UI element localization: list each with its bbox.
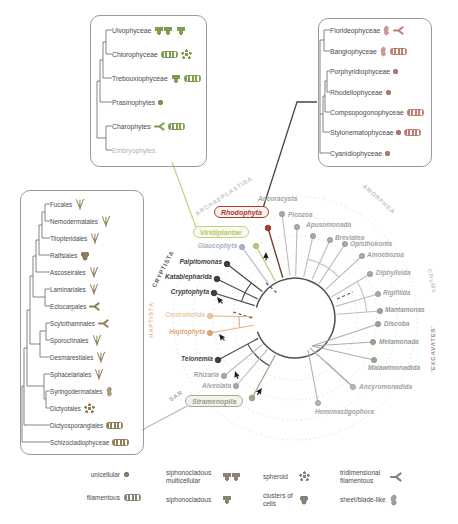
thallus-icon [75,199,85,210]
clade-row: Sphacelariales [50,369,104,379]
clade-row: Laminariales [50,284,99,294]
stramenopila-label: Stramenopila [185,395,243,407]
clade-label: Compsopogonophyceae [330,109,404,116]
siphonocladous-icon [176,26,186,35]
haptophyta-label: Haptophyta [169,328,205,335]
clade-row: Fucales [50,199,85,209]
clade-label: Dictyosporangiales [50,422,103,429]
unicellular-icon [385,151,390,156]
clade-label: Ectocarpales [50,303,86,310]
clade-label: Cyanidiophyceae [330,150,382,157]
clade-row: Embryophytes [112,145,155,155]
tridimensional-filamentous-icon [98,319,109,328]
clade-label: Dictyotales [50,405,81,412]
haptista-region-label: HAPTISTA [148,302,154,338]
clade-row: Prasinophytes [112,97,163,107]
clade-row: Florideophyceae [330,25,404,35]
rhodophyta-label: Rhodophyta [214,206,269,218]
siphonocladous-icon [171,74,181,83]
clade-row: Nemodermatales [50,216,111,226]
clade-label: Sporochnales [50,337,89,344]
clade-label: Porphyridiophyceae [330,68,390,75]
clade-label: Trebouxiophyceae [112,75,168,82]
clade-label: Nemodermatales [50,218,98,225]
clade-row: Charophytes [112,121,185,131]
clade-row: Ectocarpales [50,301,100,311]
clade-label: Scytothamnales [50,320,95,327]
legend-item: sheet/blade-like [340,494,398,506]
unicellular-icon [124,472,129,477]
clade-row: Stylonematophyceae [330,127,421,137]
viridiplantae-branch [256,246,275,281]
clade-row: Cyanidiophyceae [330,148,390,158]
clade-row: Porphyridiophyceae [330,66,398,76]
ancyromonadida-label: Ancyromonadida [359,383,412,390]
sheet-blade-icon [390,494,398,506]
tridimensional-filamentous-icon [89,302,100,311]
amorphea-bracket [308,259,339,277]
haptista-branches [210,316,254,333]
clade-row: Desmarestiales [50,352,106,362]
picozoa-label: Picozoa [288,211,313,218]
legend-label: filamentous [64,494,120,502]
thallus-icon [89,284,99,295]
sheet-blade-icon [383,25,390,36]
legend-label: clusters of cells [263,492,295,508]
malawimonadida-label: Malawimonadida [368,364,420,371]
telonemia-label: Telonemia [181,355,213,362]
tridimensional-filamentous-icon [393,26,404,35]
legend-item: clusters of cells [263,492,309,508]
siphonocladous-icon [222,495,232,504]
phylogenetic-tree-figure: Ulvophyceae Chlorophyceae Trebouxiophyce… [0,0,458,524]
filamentous-icon [404,129,421,136]
opisthokonta-label: Opisthokonta [350,240,392,247]
thallus-icon [92,335,102,346]
clade-label: Desmarestiales [50,354,93,361]
palpitomonas-label: Palpitomonas [179,258,222,265]
alveolata-label: Alveolata [202,382,231,389]
centrohelida-label: Centrohelida [165,311,205,318]
filamentous-icon [390,48,407,55]
thallus-icon [94,369,104,380]
tridimensional-filamentous-icon [154,122,165,131]
amoebozoa-label: Amoebozoa [367,251,404,258]
clade-label: Tilopteridales [50,235,87,242]
clade-row: Syringodermatales [50,386,113,396]
clade-label: Ulvophyceae [112,27,151,34]
cryptophyta-label: Cryptophyta [171,288,209,295]
filamentous-icon [112,439,129,446]
clade-label: Florideophyceae [330,27,380,34]
sheet-blade-icon [106,386,113,397]
filamentous-icon [106,422,123,429]
clusters-of-cells-icon [80,251,90,261]
tridimensional-filamentous-icon [390,472,402,482]
clade-label: Embryophytes [112,147,155,154]
clade-label: Rhodellophyceae [330,89,383,96]
thallus-icon [96,352,106,363]
legend-item: unicellular [64,471,129,479]
spheroid-icon [181,49,192,60]
clade-row: Tilopteridales [50,233,100,243]
filamentous-icon [184,75,201,82]
legend-label: siphonocladous multicellular [166,469,218,485]
clade-label: Chlorophyceae [112,51,158,58]
legend-item: siphonocladous multicellular [166,469,241,485]
clade-label: Syringodermatales [50,388,103,395]
clade-row: Rhodellophyceae [330,87,391,97]
unicellular-icon [158,100,163,105]
clade-row: Ascoseirales [50,267,99,277]
apusomonada-label: Apusomonada [306,221,351,228]
clade-row: Bangiophyceae [330,46,407,56]
mantamonas-label: Mantamonas [385,306,425,313]
clade-row: Dictyotales [50,403,95,413]
haptista-bracket [239,316,240,328]
filamentous-icon [161,51,178,58]
legend-label: siphonocladous [166,496,218,504]
viridiplantae-label: Viridiplantae [193,226,249,238]
clade-row: Sporochnales [50,335,102,345]
clade-row: Dictyosporangiales [50,420,123,430]
hemimastigophora-label: Hemimastigophora [315,408,374,415]
rhizaria-label: Rhizaria [194,371,219,378]
spheroid-icon [299,471,310,482]
unicellular-icon [396,130,401,135]
